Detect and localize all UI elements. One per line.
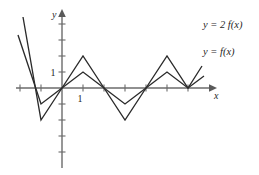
x-unit-label: 1 xyxy=(78,93,83,104)
axes-group xyxy=(16,9,217,168)
curve-f-label: y = f(x) xyxy=(202,46,235,58)
curve-2f-label: y = 2 f(x) xyxy=(202,19,243,31)
y-axis-arrowhead xyxy=(58,9,66,17)
y-axis-label: y xyxy=(51,9,57,20)
y-unit-label: 1 xyxy=(51,67,56,78)
graph-figure: x y 1 1 y = 2 f(x) y = f(x) xyxy=(0,0,259,175)
x-axis-label: x xyxy=(213,90,219,101)
graph-canvas: x y 1 1 y = 2 f(x) y = f(x) xyxy=(0,0,259,175)
